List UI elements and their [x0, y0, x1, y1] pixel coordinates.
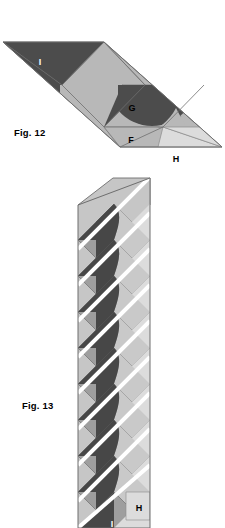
fig12-label-H: H	[173, 154, 180, 164]
figure-plate: I G F H	[0, 0, 225, 528]
fig-13-shape: H I	[78, 177, 150, 528]
fig12-label-G: G	[128, 103, 135, 113]
fig13-label-I: I	[111, 519, 114, 528]
fig-13-caption: Fig. 13	[22, 400, 54, 411]
fig12-label-F: F	[128, 135, 134, 145]
fig-12-caption: Fig. 12	[14, 127, 46, 138]
figure-plate-canvas: I G F H	[0, 0, 225, 528]
fig13-strip	[78, 177, 150, 528]
fig13-label-H: H	[136, 503, 143, 513]
fig-12-shape: I G F H	[3, 42, 222, 164]
fig12-label-I: I	[39, 57, 42, 67]
